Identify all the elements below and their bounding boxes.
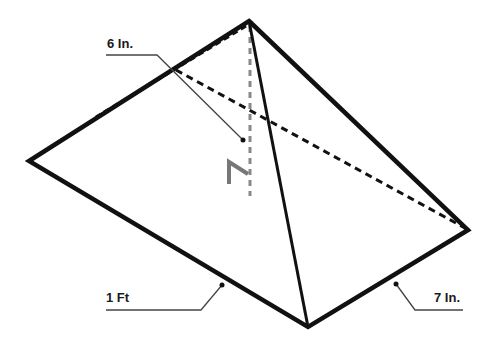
width-label: 7 In. xyxy=(434,290,460,305)
height-leader-dot xyxy=(241,138,246,143)
pyramid-diagram: 6 In. 1 Ft 7 In. xyxy=(0,0,492,345)
right-angle-marker xyxy=(229,162,248,184)
length-leader-dot xyxy=(220,283,225,288)
width-leader-dot xyxy=(394,282,399,287)
hidden-edge-back-right xyxy=(176,70,465,228)
height-label: 6 In. xyxy=(107,36,133,51)
length-label: 1 Ft xyxy=(106,290,130,305)
